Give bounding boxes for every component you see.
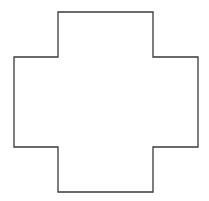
diagram-canvas [0, 0, 209, 201]
cross-shape [14, 12, 198, 192]
